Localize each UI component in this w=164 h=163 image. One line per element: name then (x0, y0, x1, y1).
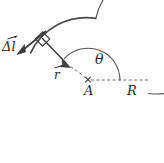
r-label-text: r (54, 68, 60, 82)
figure-container: Δl r θ A R (0, 0, 164, 163)
vector-arrow-icon (7, 35, 18, 41)
delta-l-vector-arrowhead (17, 45, 26, 55)
vector-arrow-icon (54, 64, 64, 70)
r-dashed-line (66, 63, 86, 78)
theta-arc (64, 48, 120, 80)
circular-motion-diagram-svg (0, 0, 164, 163)
delta-l-label-text: Δl (2, 39, 16, 54)
r-label: r (54, 69, 60, 81)
radius-label: R (127, 84, 137, 97)
delta-l-label: Δl (2, 38, 16, 53)
center-label: A (84, 84, 93, 97)
center-cross-icon (85, 77, 91, 83)
theta-label: θ (95, 52, 103, 66)
